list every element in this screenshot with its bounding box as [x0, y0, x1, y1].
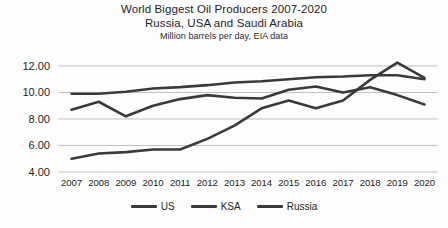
- oil-producers-line-chart: World Biggest Oil Producers 2007-2020 Ru…: [0, 0, 448, 228]
- chart-title-block: World Biggest Oil Producers 2007-2020 Ru…: [0, 2, 448, 43]
- y-axis-tick-label: 4.00: [29, 166, 50, 178]
- chart-units-note: Million barrels per day, EIA data: [0, 30, 448, 43]
- legend-item-label: Russia: [287, 201, 318, 212]
- legend-swatch-icon: [131, 205, 157, 208]
- x-axis-tick-label: 2012: [194, 177, 221, 193]
- chart-title: World Biggest Oil Producers 2007-2020: [0, 2, 448, 16]
- legend-item-label: US: [161, 201, 175, 212]
- x-axis-tick-label: 2018: [357, 177, 384, 193]
- y-axis-tick-label: 10.00: [22, 86, 50, 98]
- legend-item-russia[interactable]: Russia: [257, 201, 318, 212]
- legend-item-label: KSA: [221, 201, 241, 212]
- legend-swatch-icon: [191, 205, 217, 208]
- plot-svg: 4.006.008.0010.0012.00: [0, 50, 448, 178]
- plot-area: 4.006.008.0010.0012.00: [0, 50, 448, 178]
- x-axis-tick-label: 2007: [58, 177, 85, 193]
- series-group: [72, 63, 425, 159]
- x-axis-labels: 2007200820092010201120122013201420152016…: [58, 177, 438, 193]
- y-axis-tick-label: 8.00: [29, 113, 50, 125]
- x-axis-tick-label: 2016: [302, 177, 329, 193]
- x-axis-tick-label: 2013: [221, 177, 248, 193]
- y-axis-tick-label: 12.00: [22, 60, 50, 72]
- legend-swatch-icon: [257, 205, 283, 208]
- legend-item-ksa[interactable]: KSA: [191, 201, 241, 212]
- legend-item-us[interactable]: US: [131, 201, 175, 212]
- y-axis-labels-group: 4.006.008.0010.0012.00: [22, 60, 50, 178]
- x-axis-tick-label: 2011: [167, 177, 194, 193]
- x-axis-tick-label: 2015: [275, 177, 302, 193]
- x-axis-tick-label: 2008: [85, 177, 112, 193]
- x-axis-tick-label: 2009: [112, 177, 139, 193]
- x-axis-tick-label: 2019: [384, 177, 411, 193]
- chart-subtitle: Russia, USA and Saudi Arabia: [0, 16, 448, 30]
- series-line-us: [72, 63, 425, 159]
- y-axis-tick-label: 6.00: [29, 139, 50, 151]
- x-axis-tick-label: 2014: [248, 177, 275, 193]
- chart-legend: USKSARussia: [0, 201, 448, 212]
- x-axis-tick-label: 2010: [139, 177, 166, 193]
- x-axis-tick-label: 2020: [411, 177, 438, 193]
- x-axis-tick-label: 2017: [329, 177, 356, 193]
